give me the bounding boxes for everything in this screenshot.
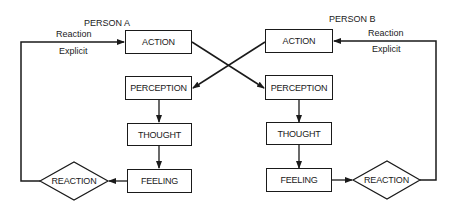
person-b-title: PERSON B [329, 14, 376, 24]
b-feedback-label-bottom: Explicit [372, 44, 401, 54]
b-perception-box: PERCEPTION [265, 75, 333, 100]
arrow-b-explicit-reaction [334, 41, 436, 180]
a-thought-box: THOUGHT [127, 123, 192, 146]
interaction-diagram: PERSON A Reaction Explicit ACTION PERCEP… [0, 0, 454, 210]
a-action-box: ACTION [125, 30, 192, 54]
person-a-title: PERSON A [84, 18, 130, 28]
b-feedback-label-top: Reaction [368, 28, 404, 38]
b-action-box: ACTION [265, 29, 333, 53]
a-perception-box: PERCEPTION [125, 76, 192, 100]
b-reaction-label: REACTION [353, 173, 420, 187]
a-feedback-label-top: Reaction [56, 29, 92, 39]
a-feeling-box: FEELING [127, 169, 192, 193]
b-feeling-box: FEELING [266, 168, 332, 192]
arrow-a-explicit-reaction [21, 42, 124, 181]
a-feedback-label-bottom: Explicit [59, 46, 88, 56]
a-reaction-label: REACTION [40, 174, 108, 188]
b-thought-box: THOUGHT [266, 122, 332, 145]
